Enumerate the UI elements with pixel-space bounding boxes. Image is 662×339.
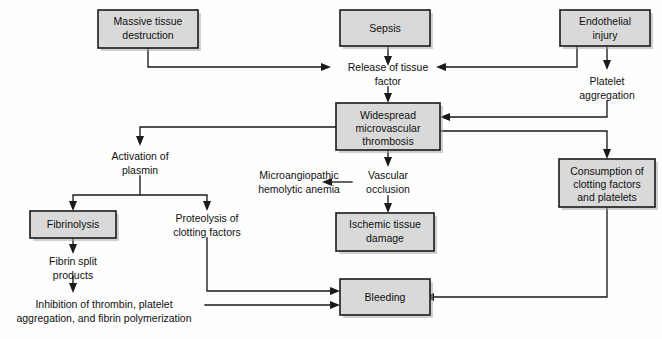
node-label-line2: clotting factors: [573, 178, 641, 190]
node-inhibition-of-thrombin: Inhibition of thrombin, platelet aggrega…: [16, 298, 191, 324]
arrowhead-proteolysis-to-bleeding: [330, 287, 340, 295]
node-label-line1: Microangiopathic: [259, 169, 338, 181]
edge-plasmin-split-bar: [73, 176, 207, 203]
node-label-line1: Bleeding: [365, 291, 406, 303]
edge-thrombosis-to-consumption: [440, 131, 607, 150]
arrowhead-plasmin-to-proteolysis: [203, 201, 211, 211]
edge-thrombosis-to-plasmin: [140, 127, 336, 137]
edge-endothelial-to-release: [444, 46, 577, 67]
node-label-line2: aggregation: [579, 89, 635, 101]
node-label-line1: Sepsis: [369, 22, 401, 34]
dic-flowchart: Massive tissue destruction Sepsis Endoth…: [0, 0, 662, 339]
node-release-of-tissue-factor: Release of tissue factor: [348, 61, 429, 87]
connector-layer: [69, 46, 611, 309]
node-label-line2: microvascular: [356, 122, 421, 134]
node-label-line2: occlusion: [366, 183, 410, 195]
node-label-line2: aggregation, and fibrin polymerization: [16, 312, 191, 324]
node-label-line1: Fibrin split: [49, 255, 97, 267]
node-label-line2: clotting factors: [173, 226, 241, 238]
node-label-line3: and platelets: [577, 191, 637, 203]
edge-platelet-to-thrombosis: [448, 101, 607, 117]
node-label-line2: damage: [366, 232, 404, 244]
node-label-line1: Widespread: [360, 109, 416, 121]
node-label-line1: Vascular: [368, 169, 409, 181]
arrowhead-endothelial-to-release: [436, 63, 446, 71]
node-label-line2: plasmin: [122, 164, 158, 176]
node-label-line1: Fibrinolysis: [47, 218, 100, 230]
node-ischemic-tissue-damage[interactable]: Ischemic tissue damage: [336, 213, 437, 254]
arrowhead-thrombosis-to-consumption: [603, 149, 611, 159]
node-label-line1: Ischemic tissue: [349, 218, 421, 230]
node-label-line2: injury: [592, 29, 618, 41]
arrowhead-fsp-to-inhibition: [69, 283, 77, 293]
node-widespread-microvascular-thrombosis[interactable]: Widespread microvascular thrombosis: [336, 103, 443, 153]
node-massive-tissue-destruction[interactable]: Massive tissue destruction: [98, 10, 201, 51]
arrowhead-endothelial-to-platelet: [603, 60, 611, 70]
arrowhead-fibrinolysis-to-fsp: [69, 244, 77, 254]
node-label-line1: Consumption of: [570, 165, 644, 177]
node-proteolysis-of-clotting-factors: Proteolysis of clotting factors: [173, 212, 241, 238]
node-label-line2: products: [53, 269, 93, 281]
node-activation-of-plasmin: Activation of plasmin: [111, 150, 168, 176]
node-label-line3: thrombosis: [362, 135, 413, 147]
arrowhead-occlusion-to-ischemic: [384, 203, 392, 213]
node-label-line2: factor: [375, 75, 402, 87]
edge-consumption-to-bleeding: [432, 207, 607, 297]
node-sepsis[interactable]: Sepsis: [340, 10, 433, 49]
arrowhead-massive-to-release: [321, 63, 331, 71]
node-label-line1: Platelet: [589, 75, 624, 87]
arrowhead-thrombosis-to-occlusion: [384, 157, 392, 167]
node-label-line1: Proteolysis of: [175, 212, 238, 224]
node-label-line1: Endothelial: [579, 15, 631, 27]
node-label-line1: Activation of: [111, 150, 168, 162]
node-label-line2: destruction: [122, 29, 174, 41]
node-vascular-occlusion: Vascular occlusion: [366, 169, 410, 195]
arrowhead-thrombosis-to-plasmin: [136, 136, 144, 146]
node-fibrinolysis[interactable]: Fibrinolysis: [30, 211, 119, 241]
node-bleeding[interactable]: Bleeding: [340, 279, 433, 318]
node-platelet-aggregation: Platelet aggregation: [579, 75, 635, 101]
node-fibrin-split-products: Fibrin split products: [49, 255, 97, 281]
arrowhead-plasmin-to-fibrinolysis: [69, 201, 77, 211]
edge-proteolysis-to-bleeding: [207, 238, 332, 291]
arrowhead-inhibition-to-bleeding: [330, 301, 340, 309]
node-label-line2: hemolytic anemia: [258, 183, 340, 195]
node-label-line1: Massive tissue: [114, 15, 183, 27]
node-label-line1: Inhibition of thrombin, platelet: [35, 298, 172, 310]
arrowhead-release-to-thrombosis: [384, 93, 392, 103]
node-endothelial-injury[interactable]: Endothelial injury: [560, 10, 653, 49]
node-label-line1: Release of tissue: [348, 61, 429, 73]
node-consumption-of-clotting-factors[interactable]: Consumption of clotting factors and plat…: [559, 159, 658, 210]
flowchart-canvas: Massive tissue destruction Sepsis Endoth…: [0, 0, 662, 339]
